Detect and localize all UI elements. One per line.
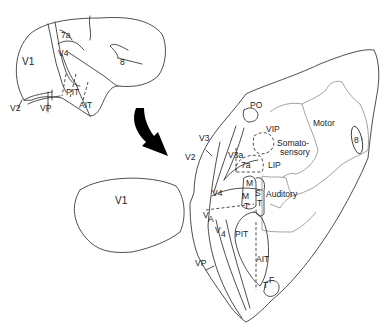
cortical-map-diagram: V1 V2 VP 7a V4 PIT AIT 8 V1 xyxy=(0,0,388,334)
label-v2-flat: V2 xyxy=(185,152,196,162)
v1-separate-region: V1 xyxy=(74,178,184,252)
label-ait-lateral: AIT xyxy=(79,100,92,110)
label-v4-lateral: V4 xyxy=(58,48,69,58)
label-auditory: Auditory xyxy=(266,189,298,199)
label-pit-lateral: PIT xyxy=(66,87,79,97)
flattened-cortex-map: PO VIP Motor 8 V3 V2 V3a Somato- sensory… xyxy=(185,50,379,322)
label-pit-flat: PIT xyxy=(235,229,248,239)
label-v4b-sub: 4 xyxy=(221,229,226,239)
label-mst-t: T xyxy=(257,198,262,208)
label-lip: LIP xyxy=(268,160,281,170)
label-v3a: V3a xyxy=(228,150,243,160)
label-mt-t: T xyxy=(244,201,249,211)
label-7a-lateral: 7a xyxy=(61,30,71,40)
label-tf-f: F xyxy=(269,275,274,285)
label-vip: VIP xyxy=(266,124,280,134)
curved-arrow-icon xyxy=(134,108,168,156)
label-ait-flat: AIT xyxy=(256,254,269,264)
label-vp-lateral: VP xyxy=(40,103,52,113)
label-v1-separate: V1 xyxy=(115,195,128,206)
label-po: PO xyxy=(250,100,263,110)
label-v3: V3 xyxy=(199,133,210,143)
label-v2-lateral: V2 xyxy=(10,103,21,113)
label-v4-flat: V4 xyxy=(212,188,223,198)
label-somato-line2: sensory xyxy=(280,147,311,157)
label-motor: Motor xyxy=(313,118,335,128)
label-tf-t: T xyxy=(263,280,268,290)
label-v1-lateral: V1 xyxy=(22,56,35,67)
label-mt-m: M xyxy=(242,191,249,201)
label-m-top: M xyxy=(246,178,253,188)
label-vp-flat: VP xyxy=(195,258,207,268)
label-8-flat: 8 xyxy=(354,135,359,145)
label-mst-s: S xyxy=(255,188,261,198)
label-8-lateral: 8 xyxy=(120,57,125,67)
label-va-sub: A xyxy=(208,214,214,224)
lateral-brain-view: V1 V2 VP 7a V4 PIT AIT 8 xyxy=(10,16,165,116)
label-7a-flat: 7a xyxy=(241,160,251,170)
